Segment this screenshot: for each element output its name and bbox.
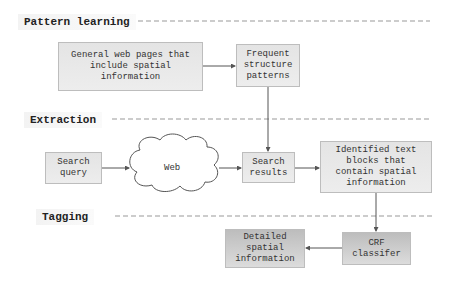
- detailed-info-node: Detailed spatial information: [225, 229, 305, 268]
- search-query-node: Search query: [45, 152, 102, 184]
- search-results-node: Search results: [242, 152, 295, 183]
- general-web-pages-node: General web pages that include spatial i…: [58, 42, 203, 91]
- crf-classifier-node: CRF classifer: [342, 232, 411, 265]
- frequent-patterns-node: Frequent structure patterns: [236, 44, 300, 87]
- identified-blocks-node: Identified text blocks that contain spat…: [320, 141, 432, 193]
- section-extraction: Extraction: [24, 112, 102, 128]
- section-tagging: Tagging: [36, 209, 94, 225]
- web-label: Web: [164, 163, 180, 173]
- section-pattern-learning: Pattern learning: [18, 14, 136, 30]
